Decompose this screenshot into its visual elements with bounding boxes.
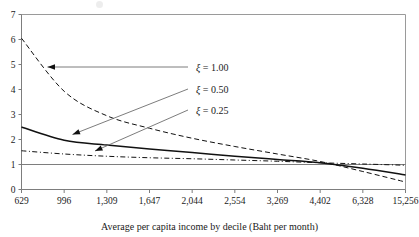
series-label-xi-1-00: ξ = 1.00 [196, 62, 228, 74]
y-tick-label: 1 [11, 160, 16, 170]
y-tick-label: 4 [11, 85, 16, 95]
series-annotation-labels: ξ = 1.00ξ = 0.50ξ = 0.25 [196, 62, 228, 117]
xi-value: = 0.50 [200, 84, 228, 95]
xi-value: = 0.25 [200, 105, 228, 116]
series-label-xi-0-50: ξ = 0.50 [196, 84, 228, 96]
y-tick-label: 7 [11, 10, 16, 20]
x-tick-label: 6,328 [352, 196, 374, 206]
x-tick-label: 1,647 [139, 196, 161, 206]
x-axis-title: Average per capita income by decile (Bah… [101, 221, 318, 233]
y-tick-label: 0 [11, 185, 16, 195]
page-artifact-mark [96, 1, 103, 8]
y-tick-label: 5 [11, 60, 16, 70]
x-tick-label: 3,269 [267, 196, 289, 206]
x-tick-label: 1,309 [96, 196, 118, 206]
x-tick-label: 4,402 [309, 196, 331, 206]
series-label-xi-0-25: ξ = 0.25 [196, 105, 228, 117]
x-tick-label: 2,554 [224, 196, 246, 206]
y-tick-label: 6 [11, 35, 16, 45]
x-tick-label: 996 [57, 196, 72, 206]
x-tick-label: 2,044 [181, 196, 203, 206]
x-tick-label: 629 [14, 196, 29, 206]
xi-value: = 1.00 [200, 62, 228, 73]
line-chart: 01234567 6299961,3091,6472,0442,5543,269… [0, 0, 419, 237]
y-tick-label: 3 [11, 110, 16, 120]
y-tick-label: 2 [11, 135, 16, 145]
x-tick-label: 15,256 [392, 196, 418, 206]
figure-container: 01234567 6299961,3091,6472,0442,5543,269… [0, 0, 419, 237]
